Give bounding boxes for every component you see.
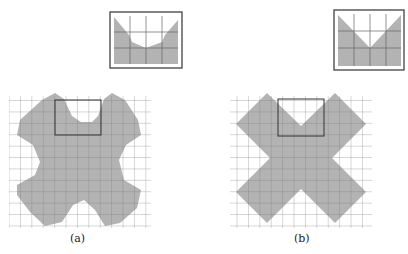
- panel-a-shape: [9, 93, 151, 228]
- inset-a: [110, 12, 182, 68]
- caption-b: (b): [294, 232, 310, 245]
- panel-b-shape: [230, 93, 372, 228]
- inset-b: [334, 10, 404, 70]
- figure: [0, 0, 408, 254]
- caption-a: (a): [70, 232, 85, 245]
